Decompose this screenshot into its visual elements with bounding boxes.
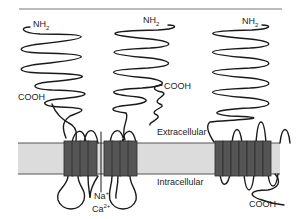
nh2-label-left: NH2 [33,20,49,31]
extracellular-label: Extracellular [157,128,207,137]
nh2-label-right: NH2 [242,17,258,28]
cooh-label-left: COOH [18,93,45,102]
nh2-label-middle: NH2 [143,16,159,27]
left-intracellular-loop-1 [58,176,85,209]
sodium-ion-label: Na+ [94,190,109,201]
cooh-label-right: COOH [249,200,276,209]
middle-cooh-tail [150,85,164,125]
right-chain-coil [208,25,269,142]
membrane-protein-diagram [0,0,296,219]
right-receptor-helices [215,141,271,176]
calcium-ion-label: Ca2+ [92,203,110,214]
cooh-label-middle: COOH [164,82,191,91]
right-intracellular-loop-2 [116,176,118,198]
right-intracellular-loop-1 [109,176,136,209]
left-chain-coil [21,27,85,138]
intracellular-label: Intracellular [157,178,204,187]
